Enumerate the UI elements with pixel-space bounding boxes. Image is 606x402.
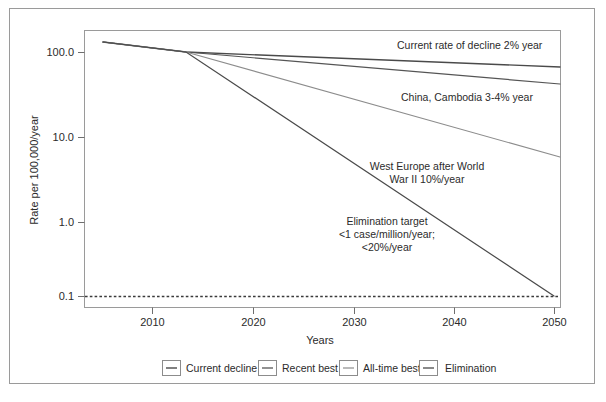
legend-item-elimination[interactable]: Elimination (420, 361, 497, 376)
x-tick-label-2040: 2040 (442, 316, 466, 328)
recent-best-annotation: China, Cambodia 3-4% year (401, 91, 533, 103)
y-axis-ticks (78, 53, 85, 297)
y-tick-label-0-1: 0.1 (59, 290, 74, 302)
y-tick-label-100: 100.0 (46, 46, 74, 58)
current-decline-annotation: Current rate of decline 2% year (397, 39, 543, 51)
x-tick-label-2010: 2010 (140, 316, 164, 328)
series-lines (103, 42, 560, 296)
elimination-annotation-line1: Elimination target (346, 215, 427, 227)
legend-item-recent-best[interactable]: Recent best (259, 361, 339, 376)
legend-item-all-time-best[interactable]: All-time best (340, 361, 421, 376)
all-time-best-annotation-line1: West Europe after World (370, 160, 485, 172)
y-tick-label-10: 10.0 (53, 131, 74, 143)
chart-legend: Current decline Recent best All-time bes… (163, 361, 497, 376)
x-tick-label-2030: 2030 (342, 316, 366, 328)
legend-item-current-decline[interactable]: Current decline (163, 361, 258, 376)
x-axis-title: Years (306, 334, 334, 346)
legend-label-current-decline: Current decline (186, 362, 257, 374)
y-tick-label-1: 1.0 (59, 216, 74, 228)
legend-label-recent-best: Recent best (282, 362, 338, 374)
x-axis-ticks (153, 308, 555, 315)
all-time-best-annotation-line2: War II 10%/year (390, 173, 465, 185)
y-axis-title: Rate per 100,000/year (28, 115, 40, 225)
chart-page: 100.0 10.0 1.0 0.1 Rate per 100,000/year… (0, 0, 606, 402)
tb-rate-decline-chart: 100.0 10.0 1.0 0.1 Rate per 100,000/year… (0, 0, 606, 402)
elimination-annotation-line3: <20%/year (362, 241, 413, 253)
elimination-annotation-line2: <1 case/million/year; (339, 228, 435, 240)
x-tick-label-2020: 2020 (241, 316, 265, 328)
y-axis-tick-labels: 100.0 10.0 1.0 0.1 (46, 46, 74, 302)
plot-panel (85, 31, 561, 308)
series-line-elimination (103, 42, 554, 296)
x-axis-tick-labels: 2010 2020 2030 2040 2050 (140, 316, 566, 328)
legend-label-all-time-best: All-time best (363, 362, 421, 374)
legend-label-elimination: Elimination (445, 362, 497, 374)
x-tick-label-2050: 2050 (542, 316, 566, 328)
